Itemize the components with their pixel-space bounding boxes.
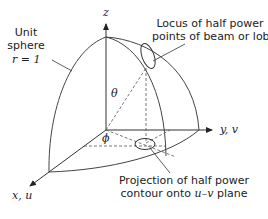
theta-label: θ	[111, 88, 118, 100]
sphere-left-arc	[49, 37, 106, 172]
sphere-bottom-arc	[49, 130, 199, 172]
x-axis	[30, 130, 106, 186]
phi-label: ϕ	[102, 133, 110, 145]
beam-ellipse	[138, 42, 158, 71]
radius-label: r = 1	[12, 54, 40, 66]
locus-label: Locus of half power points of beam or lo…	[152, 17, 268, 43]
x-axis-label: x, u	[12, 190, 32, 202]
z-axis-label: z	[103, 7, 109, 19]
y-axis-label: y, v	[220, 124, 238, 136]
sphere-diagram: Unit sphere r = 1 Locus of half power po…	[0, 0, 268, 219]
projection-ellipse	[135, 139, 155, 150]
projection-label: Projection of half power contour onto u–…	[112, 174, 256, 200]
unit-sphere-label: Unit sphere	[6, 26, 46, 52]
